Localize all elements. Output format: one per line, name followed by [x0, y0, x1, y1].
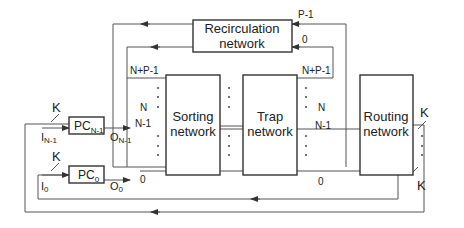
trap-label-1: Trap — [257, 109, 283, 124]
recirculation-label-1: Recirculation — [204, 21, 279, 36]
recirc-out-p-1: P-1 — [298, 9, 314, 20]
sorting-label-1: Sorting — [172, 109, 213, 124]
switch-architecture-diagram: Recirculation network Sorting network Tr… — [0, 0, 464, 228]
output-n-1-label: ON-1 — [110, 131, 132, 145]
sort-in-n: N — [140, 102, 147, 113]
k-label-bottom-right: K — [417, 178, 426, 193]
routing-label-2: network — [363, 124, 409, 139]
output-0-label: O0 — [110, 180, 124, 194]
sort-in-n-1: N-1 — [135, 118, 152, 129]
routing-label-1: Routing — [364, 109, 409, 124]
input-n-1-label: IN-1 — [41, 131, 58, 145]
recirculation-label-2: network — [219, 36, 265, 51]
k-label-top-right: K — [420, 105, 429, 120]
trap-out-n-1: N-1 — [315, 120, 332, 131]
sort-in-n-p-1: N+P-1 — [130, 65, 159, 76]
trap-out-0: 0 — [318, 176, 324, 187]
k-label-bottom-left: K — [52, 149, 61, 164]
input-0-label: I0 — [41, 180, 49, 194]
trap-label-2: network — [247, 124, 293, 139]
trap-out-n: N — [318, 102, 325, 113]
recirc-out-0: 0 — [302, 34, 308, 45]
k-label-top-left: K — [52, 100, 61, 115]
sorting-label-2: network — [170, 124, 216, 139]
sort-in-0: 0 — [140, 174, 146, 185]
trap-out-n-p-1: N+P-1 — [302, 65, 331, 76]
